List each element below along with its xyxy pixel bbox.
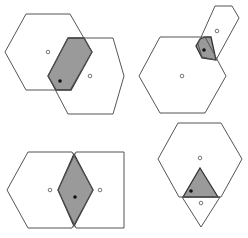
open-center-point [88, 74, 92, 78]
open-center-point [46, 50, 50, 54]
open-center-point [98, 188, 102, 192]
panel-top-left [5, 14, 124, 114]
filled-point [202, 48, 206, 52]
hexagon-overlap-diagram [0, 0, 248, 238]
open-center-point [180, 74, 184, 78]
shaded-intersection [58, 154, 93, 226]
open-center-point [215, 29, 219, 33]
panel-bottom-left [7, 152, 124, 228]
open-center-point [48, 188, 52, 192]
panel-top-right [139, 6, 239, 113]
filled-point [73, 195, 77, 199]
filled-point [58, 79, 62, 83]
panel-bottom-right [158, 123, 242, 227]
open-center-point [198, 156, 202, 160]
filled-point [189, 189, 193, 193]
open-center-point [199, 201, 203, 205]
shaded-intersection [183, 168, 218, 197]
